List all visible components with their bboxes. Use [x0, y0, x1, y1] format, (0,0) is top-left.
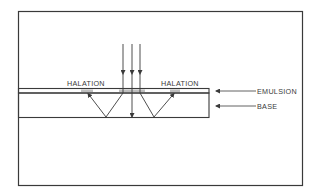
- base-label: BASE: [257, 102, 277, 111]
- incident-rays: [123, 44, 140, 117]
- film-slab: [19, 89, 210, 118]
- base-layer: [19, 93, 210, 118]
- halation-spots: [81, 90, 180, 93]
- layer-pointers: [216, 91, 256, 106]
- emulsion-label: EMULSION: [257, 87, 297, 96]
- reflect-left-up: [88, 94, 106, 118]
- halation-spot-left: [81, 90, 93, 93]
- halation-label-left: HALATION: [67, 79, 105, 88]
- halation-label-right: HALATION: [161, 79, 199, 88]
- scatter-left-down: [106, 93, 123, 117]
- scatter-right-down: [140, 93, 154, 117]
- reflect-right-up: [154, 94, 174, 118]
- reflected-rays: [88, 93, 174, 117]
- emulsion-layer: [19, 89, 210, 94]
- outer-frame: [19, 12, 303, 186]
- halation-spot-right: [170, 90, 180, 93]
- halation-diagram: HALATION HALATION EMULSION BASE: [0, 0, 323, 193]
